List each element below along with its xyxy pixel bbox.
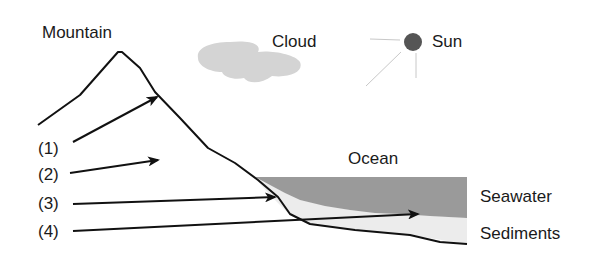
pathway-2-label: (2) <box>38 166 59 183</box>
ocean-label: Ocean <box>348 150 398 167</box>
sun-icon <box>404 33 422 51</box>
pathway-3-label: (3) <box>38 195 59 212</box>
sediments-label: Sediments <box>480 225 560 242</box>
mountain-label: Mountain <box>42 24 112 41</box>
pathway-3-arrow <box>73 197 275 204</box>
pathway-1-arrow <box>73 97 157 142</box>
pathway-1-label: (1) <box>38 140 59 157</box>
cloud-label: Cloud <box>272 33 316 50</box>
pathway-2-arrow <box>70 160 158 173</box>
seawater-label: Seawater <box>480 188 552 205</box>
pathway-4-label: (4) <box>38 223 59 240</box>
sun-label: Sun <box>432 33 462 50</box>
